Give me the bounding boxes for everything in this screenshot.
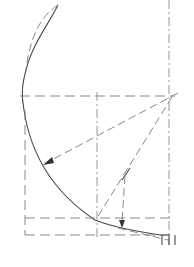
tick-mark [122, 168, 130, 180]
dashed-curve-lower-extension [118, 228, 168, 240]
arrowhead-lower [119, 220, 125, 228]
arrowhead-upper [43, 157, 54, 165]
main-curve [22, 5, 170, 235]
projection-line-upper [46, 93, 178, 163]
projection-line-lower [97, 97, 172, 218]
projection-line-vertical [122, 176, 125, 222]
construction-diagram [0, 0, 194, 267]
